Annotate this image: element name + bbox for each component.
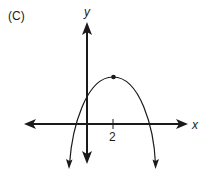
x-tick-label-2: 2 xyxy=(109,130,116,144)
vertex-point xyxy=(111,75,116,80)
x-axis-label: x xyxy=(191,118,199,132)
parabola-graph-figure: (C) y x 2 xyxy=(0,0,206,178)
panel-label: (C) xyxy=(8,9,25,23)
y-axis xyxy=(82,22,92,164)
graph-canvas: (C) y x 2 xyxy=(0,0,206,178)
x-axis xyxy=(24,119,188,129)
y-axis-label: y xyxy=(83,5,91,19)
